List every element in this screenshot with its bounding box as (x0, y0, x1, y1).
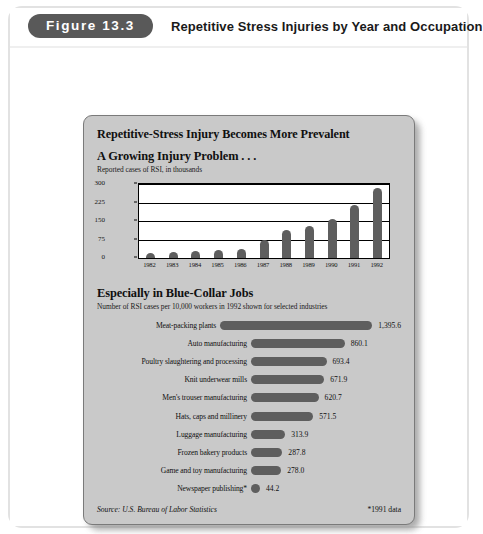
x-axis-tick-label: 1987 (251, 261, 275, 268)
gridline (139, 184, 389, 185)
x-axis-tick-label: 1991 (342, 261, 366, 268)
horizontal-bar-row: Poultry slaughtering and processing693.4 (97, 352, 401, 370)
horizontal-bar-label: Men's trouser manufacturing (97, 393, 251, 402)
horizontal-bar-row: Knit underwear mills671.9 (97, 371, 401, 389)
top-section-header: A Growing Injury Problem . . . Reported … (97, 149, 401, 174)
bottom-section-header: Especially in Blue-Collar Jobs Number of… (97, 286, 401, 311)
horizontal-bar-container: 1,395.6 (220, 316, 401, 334)
horizontal-bar-container: 571.5 (251, 407, 401, 425)
horizontal-bar-row: Auto manufacturing860.1 (97, 334, 401, 352)
horizontal-bar (251, 357, 327, 366)
horizontal-bar-container: 860.1 (251, 334, 401, 352)
vertical-bar (328, 219, 337, 258)
y-axis-tick-label: 300 (83, 179, 105, 187)
source-note: Source: U.S. Bureau of Labor Statistics (97, 505, 217, 514)
x-axis-tick-label: 1989 (296, 261, 320, 268)
y-axis-tick-label: 150 (83, 216, 105, 224)
vertical-bar (305, 226, 314, 258)
horizontal-bar-row: Frozen bakery products287.8 (97, 443, 401, 461)
vertical-bar (214, 250, 223, 258)
x-axis-tick-label: 1983 (160, 261, 184, 268)
y-axis-tick-mark (134, 220, 137, 221)
top-section-subheading: Reported cases of RSI, in thousands (97, 165, 401, 174)
horizontal-bar-row: Men's trouser manufacturing620.7 (97, 389, 401, 407)
vertical-chart-plot-area (138, 183, 390, 259)
horizontal-bar-container: 693.4 (251, 352, 401, 370)
x-axis-tick-label: 1990 (319, 261, 343, 268)
horizontal-bar (251, 375, 324, 384)
x-axis-tick-label: 1982 (137, 261, 161, 268)
horizontal-bar-label: Newspaper publishing* (97, 484, 251, 493)
chart-card: Repetitive-Stress Injury Becomes More Pr… (83, 115, 415, 525)
y-axis-tick-mark (134, 183, 137, 184)
horizontal-bar-row: Newspaper publishing*44.2 (97, 480, 401, 498)
top-section-heading: A Growing Injury Problem . . . (97, 149, 401, 164)
horizontal-bar (251, 393, 319, 402)
y-axis-tick-label: 0 (83, 253, 105, 261)
figure-header: Figure 13.3 Repetitive Stress Injuries b… (10, 8, 467, 44)
horizontal-bar-row: Hats, caps and millinery571.5 (97, 407, 401, 425)
horizontal-bar-value: 287.8 (288, 448, 305, 457)
horizontal-bar-value: 671.9 (330, 375, 347, 384)
horizontal-bar-value: 693.4 (333, 357, 350, 366)
figure-title: Repetitive Stress Injuries by Year and O… (171, 19, 483, 34)
vertical-bar (373, 188, 382, 258)
vertical-bar (191, 251, 200, 258)
horizontal-bar-container: 671.9 (251, 371, 401, 389)
horizontal-bar-container: 313.9 (251, 425, 401, 443)
horizontal-bar-label: Poultry slaughtering and processing (97, 357, 251, 366)
horizontal-bar-row: Meat-packing plants1,395.6 (97, 316, 401, 334)
horizontal-bar-label: Meat-packing plants (97, 321, 220, 330)
horizontal-bar-label: Frozen bakery products (97, 448, 251, 457)
x-axis-tick-label: 1992 (365, 261, 389, 268)
vertical-bar (260, 240, 269, 258)
horizontal-bar-label: Hats, caps and millinery (97, 412, 251, 421)
vertical-bar (146, 253, 155, 258)
horizontal-bar (251, 484, 260, 493)
card-footer: Source: U.S. Bureau of Labor Statistics … (97, 505, 401, 514)
x-axis-tick-label: 1986 (228, 261, 252, 268)
y-axis-tick-mark (134, 257, 137, 258)
footnote: *1991 data (367, 505, 401, 514)
horizontal-bar-label: Auto manufacturing (97, 339, 251, 348)
horizontal-bar (251, 430, 285, 439)
bottom-section-heading: Especially in Blue-Collar Jobs (97, 286, 401, 301)
y-axis-tick-mark (134, 201, 137, 202)
horizontal-bar-value: 860.1 (351, 339, 368, 348)
horizontal-bar-container: 287.8 (251, 443, 401, 461)
horizontal-bar-container: 44.2 (251, 480, 401, 498)
horizontal-bar-row: Luggage manufacturing313.9 (97, 425, 401, 443)
horizontal-bar-label: Luggage manufacturing (97, 430, 251, 439)
horizontal-bar-value: 278.0 (287, 466, 304, 475)
figure-stage: Repetitive-Stress Injury Becomes More Pr… (10, 48, 467, 526)
horizontal-bar (251, 339, 345, 348)
vertical-bar-chart: 075150225300 198219831984198519861987198… (97, 179, 401, 277)
horizontal-bar-container: 620.7 (251, 389, 401, 407)
figure-number-badge: Figure 13.3 (28, 14, 153, 39)
x-axis-tick-label: 1984 (183, 261, 207, 268)
horizontal-bar-value: 620.7 (325, 393, 342, 402)
x-axis-tick-label: 1985 (206, 261, 230, 268)
card-title: Repetitive-Stress Injury Becomes More Pr… (97, 127, 401, 142)
vertical-bar (282, 230, 291, 258)
y-axis-tick-label: 225 (83, 198, 105, 206)
horizontal-bar-row: Game and toy manufacturing278.0 (97, 462, 401, 480)
horizontal-bar-value: 44.2 (266, 484, 279, 493)
y-axis-tick-label: 75 (83, 235, 105, 243)
horizontal-bar-label: Knit underwear mills (97, 375, 251, 384)
vertical-bar (169, 252, 178, 258)
bottom-section-subheading: Number of RSI cases per 10,000 workers i… (97, 302, 401, 311)
y-axis-tick-mark (134, 238, 137, 239)
vertical-bar (237, 249, 246, 258)
horizontal-bar (220, 321, 372, 330)
horizontal-bar-label: Game and toy manufacturing (97, 466, 251, 475)
horizontal-bar-value: 571.5 (319, 412, 336, 421)
horizontal-bar (251, 412, 313, 421)
vertical-bar (350, 205, 359, 258)
horizontal-bar-container: 278.0 (251, 462, 401, 480)
gridline (139, 203, 389, 204)
horizontal-bar-value: 1,395.6 (378, 321, 401, 330)
x-axis-tick-label: 1988 (274, 261, 298, 268)
horizontal-bar-rows: Meat-packing plants1,395.6Auto manufactu… (97, 316, 401, 498)
